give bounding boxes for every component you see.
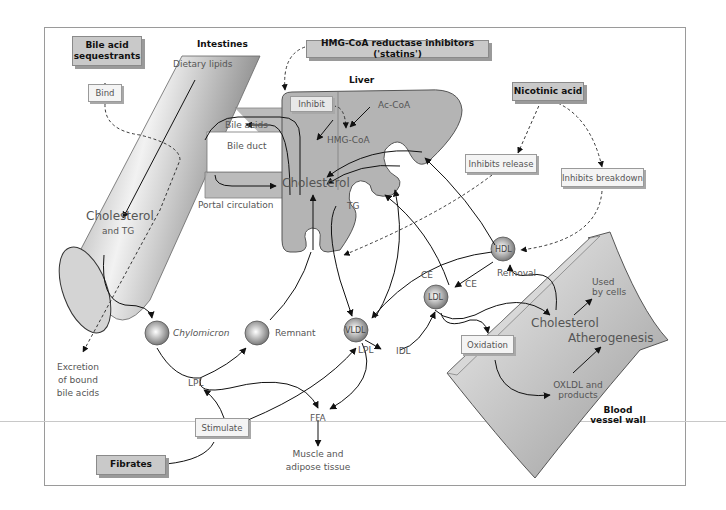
oxidation-label: Oxidation <box>467 340 508 350</box>
inhibits-breakdown-label: Inhibits breakdown <box>562 173 643 183</box>
bile-acid-sequestrants-box: Bile acidsequestrants <box>72 36 142 66</box>
statins-label: HMG-CoA reductase inhibitors ('statins') <box>307 38 488 61</box>
used-by-cells-label: Usedby cells <box>592 277 626 298</box>
remnant-label: Remnant <box>275 328 316 338</box>
removal-label: Removal <box>497 268 536 278</box>
oxldl-label: OXLDL andproducts <box>553 380 602 401</box>
inhibit-box: Inhibit <box>290 96 333 112</box>
portal-circulation-label: Portal circulation <box>198 200 274 210</box>
liver-shape <box>282 90 462 252</box>
ce-left-label: CE <box>421 270 433 280</box>
lpl-left-label: LPL <box>188 378 203 388</box>
nicotinic-acid-label: Nicotinic acid <box>514 86 582 97</box>
hmg-coa-label: HMG-CoA <box>327 135 370 145</box>
bind-label: Bind <box>96 88 115 98</box>
excretion-label: Excretionof boundbile acids <box>57 361 99 400</box>
muscle-line1: Muscle and <box>293 449 344 459</box>
statins-box: HMG-CoA reductase inhibitors ('statins') <box>306 40 489 58</box>
chylomicron-particle <box>145 321 169 345</box>
bile-acids-label: Bile acids <box>225 120 268 130</box>
ldl-label: LDL <box>428 293 443 302</box>
excretion-line1: Excretion <box>57 362 99 372</box>
inhibit-label: Inhibit <box>298 99 325 109</box>
ffa-label: FFA <box>310 413 326 423</box>
fibrates-label: Fibrates <box>110 459 152 470</box>
muscle-adipose-label: Muscle andadipose tissue <box>286 448 351 474</box>
tg-label: TG <box>347 201 359 211</box>
and-tg-label: and TG <box>102 226 134 236</box>
excretion-line2: of bound <box>58 375 98 385</box>
lpl-right-label: LPL <box>358 345 373 355</box>
drug-label-line1: Bile acid <box>85 40 128 50</box>
inhibits-release-box: Inhibits release <box>465 154 537 173</box>
chylomicron-label: Chylomicron <box>173 328 229 338</box>
blood-vessel-wall <box>447 232 668 478</box>
ce-right-label: CE <box>465 279 477 289</box>
oxidation-box: Oxidation <box>461 335 514 354</box>
vldl-label: VLDL <box>345 326 366 335</box>
hdl-label: HDL <box>495 245 512 254</box>
vessel-title-line2: vessel wall <box>590 415 646 425</box>
atherogenesis-label: Atherogenesis <box>568 332 654 346</box>
intestines-title: Intestines <box>197 39 248 49</box>
muscle-line2: adipose tissue <box>286 462 351 472</box>
blood-vessel-wall-title: Bloodvessel wall <box>590 405 646 426</box>
idl-label: IDL <box>396 346 411 356</box>
ac-coa-label: Ac-CoA <box>378 100 410 110</box>
oxldl-line2: products <box>558 390 597 400</box>
bile-duct-label: Bile duct <box>227 141 266 151</box>
vessel-title-line1: Blood <box>604 405 633 415</box>
lipid-metabolism-diagram: Bile acidsequestrants HMG-CoA reductase … <box>0 0 726 510</box>
bind-box: Bind <box>88 84 122 102</box>
stimulate-box: Stimulate <box>195 418 249 437</box>
dietary-lipids-label: Dietary lipids <box>173 59 233 69</box>
used-line2: by cells <box>592 287 626 297</box>
inhibits-release-label: Inhibits release <box>469 159 534 169</box>
liver-title: Liver <box>349 75 374 85</box>
oxldl-line1: OXLDL and <box>553 380 602 390</box>
cholesterol-vessel-label: Cholesterol <box>531 317 599 331</box>
drug-label-line2: sequestrants <box>74 51 141 61</box>
excretion-line3: bile acids <box>57 388 99 398</box>
fibrates-box: Fibrates <box>96 455 166 475</box>
remnant-particle <box>245 321 269 345</box>
used-line1: Used <box>592 277 615 287</box>
cholesterol-intestine-label: Cholesterol <box>86 210 154 224</box>
inhibits-breakdown-box: Inhibits breakdown <box>561 168 644 187</box>
stimulate-label: Stimulate <box>202 423 243 433</box>
nicotinic-acid-box: Nicotinic acid <box>512 82 584 101</box>
cholesterol-liver-label: Cholesterol <box>282 177 350 191</box>
